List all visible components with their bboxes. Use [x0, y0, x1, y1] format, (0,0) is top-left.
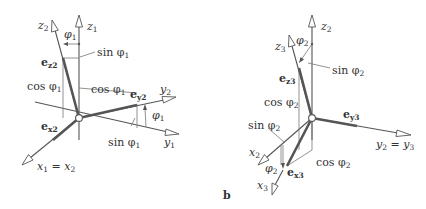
z2-arrowhead-icon — [52, 20, 59, 32]
phi1-angle-arrowhead-icon — [63, 42, 68, 46]
phi2-top-label: φ2 — [296, 34, 309, 48]
phi2-top-dot — [311, 43, 313, 45]
left-diagram: z2 z1 φ1 sin φ1 ez2 cos φ1 cos φ1 ey2 y2… — [22, 15, 179, 174]
y1-arrowhead-icon — [165, 129, 179, 136]
phi2-bottom-arrowhead-icon — [281, 163, 285, 169]
panel-label-b: b — [223, 189, 231, 202]
e-z3-label: ez3 — [279, 72, 295, 86]
x3-arrowhead-icon — [272, 183, 278, 195]
sin-phi1-top-label: sin φ1 — [97, 46, 129, 60]
right-origin — [309, 115, 316, 122]
right-diagram: z2 φ2 z3 sin φ2 ez3 cos φ2 ey3 sin φ2 y2… — [248, 15, 414, 195]
cos-phi2-bottom-label: cos φ2 — [316, 156, 351, 170]
e-x3-vector — [287, 118, 312, 166]
e-y2-label: ey2 — [130, 88, 147, 102]
x1-x2-arrowhead-icon — [22, 155, 33, 166]
y2-arrowhead-icon — [162, 97, 176, 104]
x2-label-right: x2 — [249, 146, 260, 160]
sin-phi2-top-leader — [308, 63, 330, 68]
phi1-top-label: φ1 — [64, 28, 76, 42]
left-origin — [76, 115, 83, 122]
sin-phi1-bottom-label: sin φ1 — [108, 136, 140, 150]
z1-label: z1 — [86, 20, 98, 34]
sin-phi2-top-label: sin φ2 — [332, 64, 364, 78]
cos-phi1-left-label: cos φ1 — [27, 80, 61, 94]
phi2-top-arrowhead-icon — [299, 57, 304, 63]
z2-arrowhead-right-icon — [309, 15, 316, 27]
e-x2-label: ex2 — [41, 120, 58, 134]
phi2-bottom-label: φ2 — [265, 162, 278, 176]
e-y3-label: ey3 — [343, 108, 360, 122]
y2-equals-y3-label: y2 = y3 — [375, 138, 414, 152]
z3-label: z3 — [274, 40, 286, 54]
sin-phi2-left-label: sin φ2 — [248, 119, 280, 133]
z3-arrowhead-icon — [289, 35, 296, 47]
e-z2-label: ez2 — [41, 56, 57, 70]
cos-phi1-mid-label: cos φ1 — [91, 83, 125, 97]
e-z3-vector — [299, 68, 312, 118]
e-y2-vector — [79, 105, 137, 118]
cos-phi2-left-label: cos φ2 — [264, 96, 299, 110]
sin-phi1-leader — [80, 52, 95, 57]
phi1-right-arrowhead-icon — [143, 104, 147, 110]
phi1-right-label: φ1 — [152, 109, 164, 123]
y2-y3-arrowhead-icon — [396, 130, 411, 137]
z2-label: z2 — [37, 19, 49, 33]
x3-label: x3 — [257, 179, 268, 193]
y2-label: y2 — [159, 83, 171, 97]
z1-arrowhead-icon — [76, 15, 83, 27]
rotation-diagram: z2 z1 φ1 sin φ1 ez2 cos φ1 cos φ1 ey2 y2… — [0, 0, 426, 209]
phi1-angle-dot — [78, 43, 80, 45]
z2-label-right: z2 — [320, 20, 332, 34]
y1-label: y1 — [163, 136, 175, 150]
e-x3-label: ex3 — [287, 166, 304, 180]
x1-equals-x2-label: x1 = x2 — [37, 160, 75, 174]
phi1-right-angle-arrow — [145, 108, 146, 127]
